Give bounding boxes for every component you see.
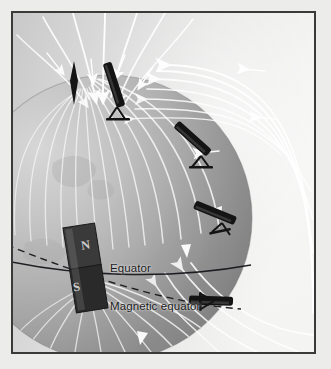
figure-root: N S (0, 0, 331, 369)
figure-frame: N S (11, 11, 316, 354)
dip-needle-low-lat (193, 200, 237, 235)
magnetic-equator-label: Magnetic equator (110, 300, 200, 312)
dip-needle-high-lat (103, 61, 130, 120)
dip-needle-mid-lat (173, 121, 213, 169)
illustration-scene: N S (13, 13, 314, 352)
equator-label: Equator (110, 262, 151, 274)
dip-needle-pole (70, 61, 78, 105)
